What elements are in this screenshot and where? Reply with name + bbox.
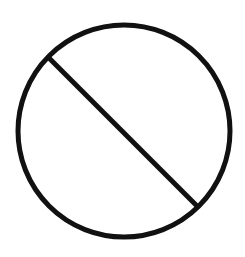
prohibited-slash [49, 58, 199, 208]
prohibited-icon [0, 0, 245, 257]
icon-canvas [0, 0, 245, 257]
